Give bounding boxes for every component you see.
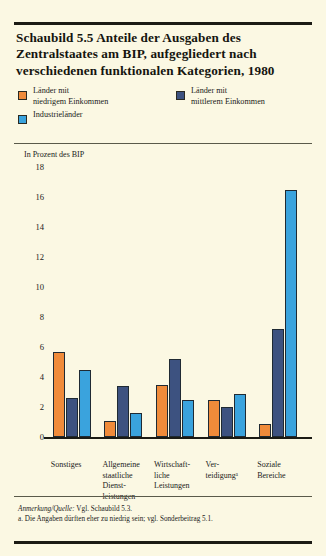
- x-axis-group-label: Ver- teidigungᵃ: [206, 460, 264, 481]
- y-axis-tick-label: 4: [18, 372, 44, 382]
- footnote-a: a. Die Angaben dürften eher zu niedrig s…: [18, 514, 312, 524]
- source-text: Vgl. Schaubild 5.3.: [75, 505, 132, 513]
- bar: [272, 329, 284, 437]
- legend-swatch-icon: [176, 91, 185, 100]
- legend-item-low-income: Länder mit niedrigem Einkommen: [18, 86, 108, 107]
- figure-notes: Anmerkung/Quelle: Vgl. Schaubild 5.3. a.…: [18, 504, 312, 524]
- legend-label: Länder mit niedrigem Einkommen: [33, 86, 108, 107]
- legend-swatch-icon: [18, 91, 27, 100]
- figure-title: Schaubild 5.5 Anteile der Ausgaben des Z…: [16, 30, 312, 79]
- legend-label: Industrieländer: [33, 110, 83, 121]
- legend-divider: [14, 143, 312, 144]
- x-axis-line: [44, 437, 312, 439]
- notes-divider: [14, 496, 312, 497]
- bar: [130, 413, 142, 437]
- bar: [221, 407, 233, 437]
- bar: [182, 400, 194, 438]
- bar: [259, 424, 271, 438]
- legend-swatch-icon: [18, 115, 27, 124]
- bar: [104, 421, 116, 438]
- y-axis-tick-label: 6: [18, 342, 44, 352]
- bar: [53, 352, 65, 438]
- y-axis-tick-label: 0: [18, 432, 44, 442]
- bar: [208, 400, 220, 438]
- y-axis-ticks: 024681012141618: [14, 167, 44, 437]
- bar: [156, 385, 168, 438]
- y-axis-tick-label: 12: [18, 252, 44, 262]
- x-axis-group-label: Soziale Bereiche: [257, 460, 315, 481]
- x-axis-group-label: Wirtschaft- liche Leistungen: [154, 460, 212, 492]
- y-axis-tick-label: 14: [18, 222, 44, 232]
- x-axis-group-label: Sonstiges: [51, 460, 109, 471]
- bar: [66, 398, 78, 437]
- legend-item-middle-income: Länder mit mittlerem Einkommen: [176, 86, 265, 107]
- bar: [285, 190, 297, 438]
- y-axis-caption: In Prozent des BIP: [24, 150, 84, 159]
- bar: [234, 394, 246, 438]
- source-line: Anmerkung/Quelle: Vgl. Schaubild 5.3.: [18, 504, 312, 514]
- y-axis-tick-label: 16: [18, 192, 44, 202]
- bottom-rule: [14, 541, 312, 544]
- legend-item-industrial: Industrieländer: [18, 110, 83, 124]
- y-axis-tick-label: 2: [18, 402, 44, 412]
- y-axis-tick-label: 8: [18, 312, 44, 322]
- y-axis-tick-label: 18: [18, 162, 44, 172]
- bar: [79, 370, 91, 438]
- top-rule: [14, 22, 312, 25]
- bar-chart: In Prozent des BIP 024681012141618 Sonst…: [14, 150, 312, 495]
- source-label: Anmerkung/Quelle:: [18, 505, 75, 513]
- legend-label: Länder mit mittlerem Einkommen: [191, 86, 265, 107]
- bar: [169, 359, 181, 437]
- plot-area: SonstigesAllgemeine staatliche Dienst- l…: [50, 167, 308, 437]
- bar: [117, 386, 129, 437]
- y-axis-tick-label: 10: [18, 282, 44, 292]
- figure-panel: Schaubild 5.5 Anteile der Ausgaben des Z…: [0, 0, 326, 556]
